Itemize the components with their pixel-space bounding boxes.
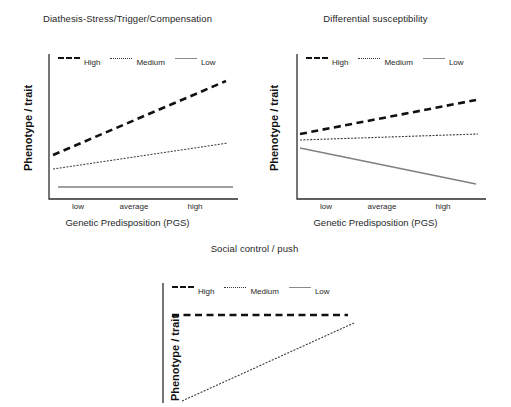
x-axis-label: Genetic Predisposition (PGS) (0, 217, 255, 228)
series-line-medium (182, 323, 354, 401)
plot-svg (162, 283, 367, 403)
plot-area (48, 54, 233, 199)
x-tick-low: low (72, 202, 84, 211)
series-line-medium (300, 134, 478, 140)
chart-title: Social control / push (122, 243, 387, 254)
chart-panel-social-control: Social control / push Phenotype / trait … (122, 240, 387, 400)
x-tick-high: high (187, 202, 202, 211)
series-line-low (300, 148, 476, 184)
y-axis-label: Phenotype / trait (22, 78, 34, 178)
chart-panel-diathesis-stress: Diathesis-Stress/Trigger/Compensation Ph… (0, 10, 255, 225)
x-tick-low: low (320, 202, 332, 211)
series-line-medium (53, 143, 228, 169)
series-line-high (300, 100, 476, 134)
axis-lines (49, 54, 238, 199)
plot-area (296, 54, 481, 199)
y-axis-label: Phenotype / trait (268, 78, 280, 178)
axis-lines (297, 54, 486, 199)
chart-panel-differential-susceptibility: Differential susceptibility Phenotype / … (248, 10, 503, 225)
plot-svg (296, 54, 486, 204)
x-tick-average: average (120, 202, 149, 211)
plot-area (162, 283, 362, 403)
chart-title: Differential susceptibility (248, 13, 503, 24)
x-tick-high: high (435, 202, 450, 211)
series-line-high (53, 81, 226, 155)
plot-svg (48, 54, 238, 204)
x-tick-average: average (368, 202, 397, 211)
x-axis-label: Genetic Predisposition (PGS) (248, 217, 503, 228)
chart-title: Diathesis-Stress/Trigger/Compensation (0, 13, 255, 24)
